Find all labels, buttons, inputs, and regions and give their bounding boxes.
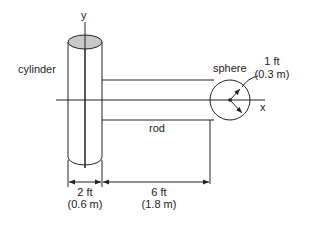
sphere-radius-imperial: 1 ft xyxy=(264,55,279,67)
cylinder-width-imperial: 2 ft xyxy=(77,186,92,198)
sphere xyxy=(210,76,258,120)
radius-arrow-lower xyxy=(230,100,242,113)
radius-arrow-upper xyxy=(230,89,240,100)
y-axis: y xyxy=(81,9,87,168)
cylinder-rod-sphere-diagram: y cylinder x rod sphere 1 ft (0.3 m) 2 f… xyxy=(0,0,311,226)
rod-length-imperial: 6 ft xyxy=(151,186,166,198)
dimension-lines xyxy=(68,120,210,187)
x-axis-label: x xyxy=(260,101,266,113)
rod-label: rod xyxy=(149,122,165,134)
cylinder-width-metric: (0.6 m) xyxy=(68,198,103,210)
cylinder-label: cylinder xyxy=(18,63,56,75)
sphere-radius-metric: (0.3 m) xyxy=(255,68,290,80)
sphere-label: sphere xyxy=(213,62,247,74)
cylinder xyxy=(68,35,102,168)
rod-length-metric: (1.8 m) xyxy=(142,198,177,210)
y-axis-label: y xyxy=(81,9,87,21)
